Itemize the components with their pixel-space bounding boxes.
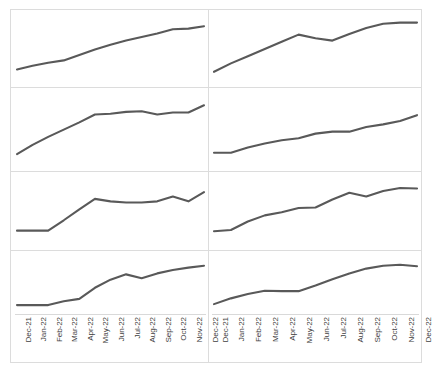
chart-panel-row2-col1 bbox=[13, 89, 208, 170]
sparkline-row2-col2 bbox=[210, 89, 421, 170]
x-axis-tick-label: Oct-22 bbox=[178, 317, 189, 373]
sparkline-row4-col1 bbox=[13, 252, 208, 315]
x-axis-tick-label: Feb-22 bbox=[253, 317, 264, 373]
x-axis-tick-label: Nov-22 bbox=[406, 317, 417, 373]
chart-panel-row4-col2 bbox=[210, 252, 421, 315]
row-divider-1 bbox=[11, 87, 421, 88]
chart-panel-row1-col1 bbox=[13, 12, 208, 87]
sparkline-path bbox=[214, 23, 417, 72]
x-axis-tick-label: Sep-22 bbox=[163, 317, 174, 373]
x-axis-tick-label: Dec-21 bbox=[23, 317, 34, 373]
chart-panel-row1-col2 bbox=[210, 12, 421, 87]
x-axis-tick-label: Jan-22 bbox=[38, 317, 49, 373]
sparkline-path bbox=[17, 105, 204, 154]
column-divider bbox=[208, 10, 209, 362]
sparkline-path bbox=[17, 266, 204, 305]
x-axis-tick-label: Feb-22 bbox=[54, 317, 65, 373]
sparkline-row1-col2 bbox=[210, 12, 421, 87]
x-axis-tick-label: May-22 bbox=[100, 317, 111, 373]
x-axis-tick-label: May-22 bbox=[304, 317, 315, 373]
sparkline-path bbox=[214, 188, 417, 231]
x-axis-tick-label: Aug-22 bbox=[355, 317, 366, 373]
sparkline-path bbox=[214, 115, 417, 153]
sparkline-row1-col1 bbox=[13, 12, 208, 87]
x-axis-tick-label: Sep-22 bbox=[372, 317, 383, 373]
x-axis-tick-label: Mar-22 bbox=[270, 317, 281, 373]
x-axis-tick-label: Jul-22 bbox=[338, 317, 349, 373]
x-axis-tick-label: Nov-22 bbox=[194, 317, 205, 373]
x-axis-tick-label: Jun-22 bbox=[116, 317, 127, 373]
x-axis-tick-label: Dec-21 bbox=[220, 317, 231, 373]
sparkline-row2-col1 bbox=[13, 89, 208, 170]
chart-panel-row3-col2 bbox=[210, 173, 421, 249]
row-divider-2 bbox=[11, 171, 421, 172]
x-axis-tick-label: Jun-22 bbox=[321, 317, 332, 373]
x-axis-tick-label: Dec-22 bbox=[423, 317, 433, 373]
figure-root: Dec-21Jan-22Feb-22Mar-22Apr-22May-22Jun-… bbox=[0, 0, 433, 373]
x-axis-tick-label: Apr-22 bbox=[287, 317, 298, 373]
x-axis-tick-label: Aug-22 bbox=[147, 317, 158, 373]
chart-panel-row2-col2 bbox=[210, 89, 421, 170]
sparkline-path bbox=[214, 265, 417, 304]
x-axis-labels-left: Dec-21Jan-22Feb-22Mar-22Apr-22May-22Jun-… bbox=[13, 317, 208, 373]
x-axis-labels-right: Dec-21Jan-22Feb-22Mar-22Apr-22May-22Jun-… bbox=[210, 317, 421, 373]
sparkline-row3-col2 bbox=[210, 173, 421, 249]
row-divider-3 bbox=[11, 250, 421, 251]
x-axis-tick-label: Jul-22 bbox=[132, 317, 143, 373]
x-axis-tick-label: Apr-22 bbox=[85, 317, 96, 373]
sparkline-path bbox=[17, 192, 204, 230]
x-axis-tick-label: Jan-22 bbox=[236, 317, 247, 373]
chart-panel-row3-col1 bbox=[13, 173, 208, 249]
chart-panel-row4-col1 bbox=[13, 252, 208, 315]
x-axis-tick-label: Mar-22 bbox=[69, 317, 80, 373]
small-multiples-frame: Dec-21Jan-22Feb-22Mar-22Apr-22May-22Jun-… bbox=[10, 9, 422, 363]
sparkline-row4-col2 bbox=[210, 252, 421, 315]
sparkline-row3-col1 bbox=[13, 173, 208, 249]
x-axis-tick-label: Oct-22 bbox=[389, 317, 400, 373]
sparkline-path bbox=[17, 26, 204, 69]
